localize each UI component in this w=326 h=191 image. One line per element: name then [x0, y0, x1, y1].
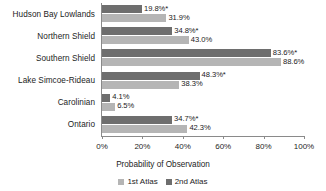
x-axis-title: Probability of Observation: [0, 160, 326, 169]
category-label: Northern Shield: [0, 25, 99, 47]
x-axis-tick: [183, 136, 184, 139]
x-axis-tick-label: 40%: [175, 142, 191, 151]
bar-value-1st-atlas: 38.3%: [181, 80, 202, 88]
bar-2nd-atlas: [102, 94, 110, 102]
category-label: Lake Simcoe-Rideau: [0, 70, 99, 92]
x-axis-tick-label: 100%: [294, 142, 314, 151]
category-label: Ontario: [0, 114, 99, 136]
x-axis-tick-label: 20%: [134, 142, 150, 151]
bar-group: 83.6%* 88.6%: [102, 49, 304, 67]
bar-group: 4.1% 6.5%: [102, 94, 304, 112]
category-label: Southern Shield: [0, 47, 99, 69]
x-axis-tick-label: 60%: [215, 142, 231, 151]
chart-legend: 1st Atlas 2nd Atlas: [0, 177, 326, 186]
bar-value-2nd-atlas: 83.6%*: [273, 49, 297, 57]
bar-group: 48.3%* 38.3%: [102, 72, 304, 90]
bar-value-2nd-atlas: 19.8%*: [144, 5, 168, 13]
x-axis-line: [101, 136, 304, 137]
bar-1st-atlas: [102, 103, 115, 111]
bar-value-2nd-atlas: 34.8%*: [174, 27, 198, 35]
bar-1st-atlas: [102, 36, 189, 44]
x-axis-tick-label: 0%: [96, 142, 108, 151]
bar-group: 34.8%* 43.0%: [102, 27, 304, 45]
bar-value-1st-atlas: 31.9%: [168, 14, 189, 22]
bar-value-1st-atlas: 43.0%: [191, 36, 212, 44]
x-axis-tick: [304, 136, 305, 139]
x-axis-tick-label: 80%: [256, 142, 272, 151]
bar-1st-atlas: [102, 58, 281, 66]
legend-swatch-icon: [166, 179, 172, 185]
bar-1st-atlas: [102, 81, 179, 89]
bar-1st-atlas: [102, 14, 166, 22]
bar-chart: Hudson Bay Lowlands Northern Shield Sout…: [0, 0, 326, 191]
plot-area: 19.8%* 31.9% 34.8%* 43.0% 83.6%* 88.6% 4…: [102, 3, 304, 136]
bar-2nd-atlas: [102, 27, 172, 35]
category-label: Carolinian: [0, 92, 99, 114]
x-axis-tick: [223, 136, 224, 139]
bar-value-2nd-atlas: 4.1%: [112, 93, 129, 101]
bar-2nd-atlas: [102, 116, 172, 124]
bar-value-1st-atlas: 6.5%: [117, 102, 134, 110]
bar-1st-atlas: [102, 125, 187, 133]
bar-value-1st-atlas: 42.3%: [189, 124, 210, 132]
bar-2nd-atlas: [102, 5, 142, 13]
legend-item-2nd-atlas: 2nd Atlas: [166, 177, 208, 186]
x-axis-tick: [142, 136, 143, 139]
legend-label: 1st Atlas: [127, 177, 157, 186]
x-axis-tick: [264, 136, 265, 139]
legend-swatch-icon: [118, 179, 124, 185]
category-axis-labels: Hudson Bay Lowlands Northern Shield Sout…: [0, 3, 99, 136]
bar-2nd-atlas: [102, 49, 271, 57]
bar-value-2nd-atlas: 48.3%*: [202, 71, 226, 79]
x-axis-tick: [102, 136, 103, 139]
bar-group: 19.8%* 31.9%: [102, 5, 304, 23]
category-label: Hudson Bay Lowlands: [0, 3, 99, 25]
legend-label: 2nd Atlas: [175, 177, 208, 186]
legend-item-1st-atlas: 1st Atlas: [118, 177, 157, 186]
bar-value-1st-atlas: 88.6%: [283, 58, 304, 66]
bar-value-2nd-atlas: 34.7%*: [174, 115, 198, 123]
bar-group: 34.7%* 42.3%: [102, 116, 304, 134]
